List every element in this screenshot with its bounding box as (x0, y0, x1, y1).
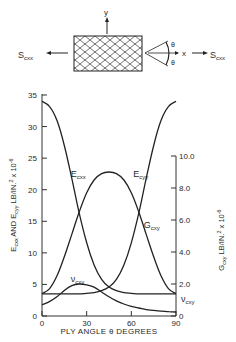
left-tick-label: 30 (28, 123, 37, 132)
right-load-label: Scxx (210, 50, 225, 61)
chart-axes (42, 94, 176, 316)
right-tick-label: 4.0 (179, 248, 191, 257)
curve-label: Ecyy (133, 169, 148, 180)
curve-e-cxx (42, 101, 176, 294)
y-label: y (104, 8, 108, 17)
x-label: x (182, 49, 186, 58)
right-tick-label: 2.0 (179, 280, 191, 289)
x-arrowhead-icon (175, 51, 179, 55)
curve-label: νcxy (71, 274, 85, 285)
curve-label: Ecxx (71, 169, 86, 180)
curve-label: νcxy (181, 294, 195, 305)
x-tick-label: 0 (40, 319, 45, 328)
data-curves (42, 101, 176, 312)
x-axis-title: PLY ANGLE θ DEGREES (60, 327, 157, 336)
svg-text:Ecxx AND Ecyy LB/IN.2 x 10-6: Ecxx AND Ecyy LB/IN.2 x 10-6 (8, 158, 19, 251)
angle-arc-icon (166, 42, 169, 65)
curve-e-cyy (42, 101, 176, 294)
left-tick-label: 15 (28, 217, 37, 226)
laminate-block (74, 36, 142, 71)
right-tick-label: 6.0 (179, 216, 191, 225)
laminate-diagram: y Scxx θ θ x Scxx (18, 8, 225, 71)
y-arrowhead-icon (105, 17, 109, 22)
right-tick-label: 10.0 (179, 152, 195, 161)
theta-top-label: θ (171, 41, 175, 48)
svg-text:Gcxy LB/IN.2 x 10-6: Gcxy LB/IN.2 x 10-6 (216, 209, 227, 270)
left-tick-label: 25 (28, 154, 37, 163)
right-y-axis-title: Gcxy LB/IN.2 x 10-6 (216, 209, 227, 270)
right-tick-label: 8.0 (179, 184, 191, 193)
left-tick-label: 5 (33, 280, 38, 289)
ply-angle-chart-figure: y Scxx θ θ x Scxx 0510152025303502.04.06… (0, 0, 236, 342)
left-arrowhead-icon (46, 51, 51, 55)
curve-ν-cxy (42, 284, 176, 312)
left-tick-label: 0 (33, 312, 38, 321)
left-y-axis-title: Ecxx AND Ecyy LB/IN.2 x 10-6 (8, 158, 19, 251)
left-tick-label: 10 (28, 249, 37, 258)
tick-labels: 0510152025303502.04.06.08.010.00306090 (28, 91, 195, 328)
curve-g-cxy (42, 172, 176, 294)
x-tick-label: 90 (172, 319, 181, 328)
theta-bottom-label: θ (171, 59, 175, 66)
fiber-angle-line-bottom (145, 53, 168, 66)
fiber-angle-line-top (145, 41, 168, 53)
left-tick-label: 35 (28, 91, 37, 100)
left-tick-label: 20 (28, 186, 37, 195)
curve-label: Gcxy (144, 220, 160, 231)
tick-marks (42, 95, 176, 316)
right-arrowhead-icon (203, 51, 208, 55)
left-load-label: Scxx (18, 50, 33, 61)
